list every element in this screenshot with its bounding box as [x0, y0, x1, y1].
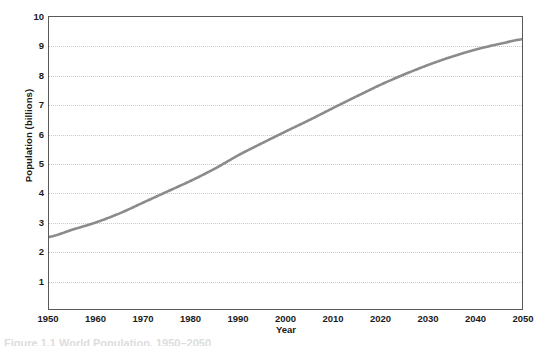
y-tick-5: 5: [10, 158, 44, 169]
y-axis-tick-labels: 12345678910: [8, 0, 44, 346]
figure-caption: Figure 1.1 World Population, 1950–2050: [4, 337, 434, 346]
y-tick-2: 2: [10, 246, 44, 257]
population-line-series: [49, 17, 523, 310]
y-tick-6: 6: [10, 128, 44, 139]
figure-population-chart: Population (billions) 12345678910 195019…: [0, 0, 547, 346]
y-tick-8: 8: [10, 69, 44, 80]
y-tick-3: 3: [10, 216, 44, 227]
y-tick-9: 9: [10, 40, 44, 51]
y-tick-10: 10: [10, 11, 44, 22]
x-tick-2050: 2050: [493, 313, 547, 324]
plot-area: [48, 16, 523, 310]
y-tick-4: 4: [10, 187, 44, 198]
x-axis-title: Year: [48, 324, 524, 335]
y-tick-1: 1: [10, 275, 44, 286]
y-tick-7: 7: [10, 99, 44, 110]
